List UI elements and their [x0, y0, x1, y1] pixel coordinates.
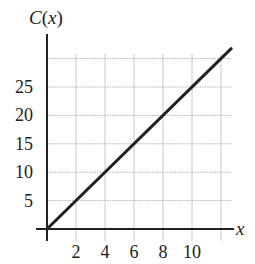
y-tick-labels: 510152025	[15, 77, 33, 211]
y-axis-label: C(x)	[29, 7, 63, 29]
x-tick-label: 10	[183, 242, 201, 262]
x-tick-label: 8	[159, 242, 168, 262]
y-tick-label: 25	[15, 77, 33, 97]
data-series	[47, 49, 231, 229]
line-chart: 246810 510152025 C(x) x	[0, 0, 255, 264]
y-tick-label: 15	[15, 134, 33, 154]
series-line	[47, 49, 231, 229]
x-tick-label: 4	[101, 242, 110, 262]
x-tick-label: 6	[130, 242, 139, 262]
grid-lines	[47, 54, 231, 241]
x-tick-label: 2	[72, 242, 81, 262]
x-axis-label: x	[235, 218, 245, 239]
y-tick-label: 20	[15, 105, 33, 125]
y-tick-label: 5	[24, 191, 33, 211]
x-tick-labels: 246810	[72, 242, 202, 262]
y-tick-label: 10	[15, 162, 33, 182]
